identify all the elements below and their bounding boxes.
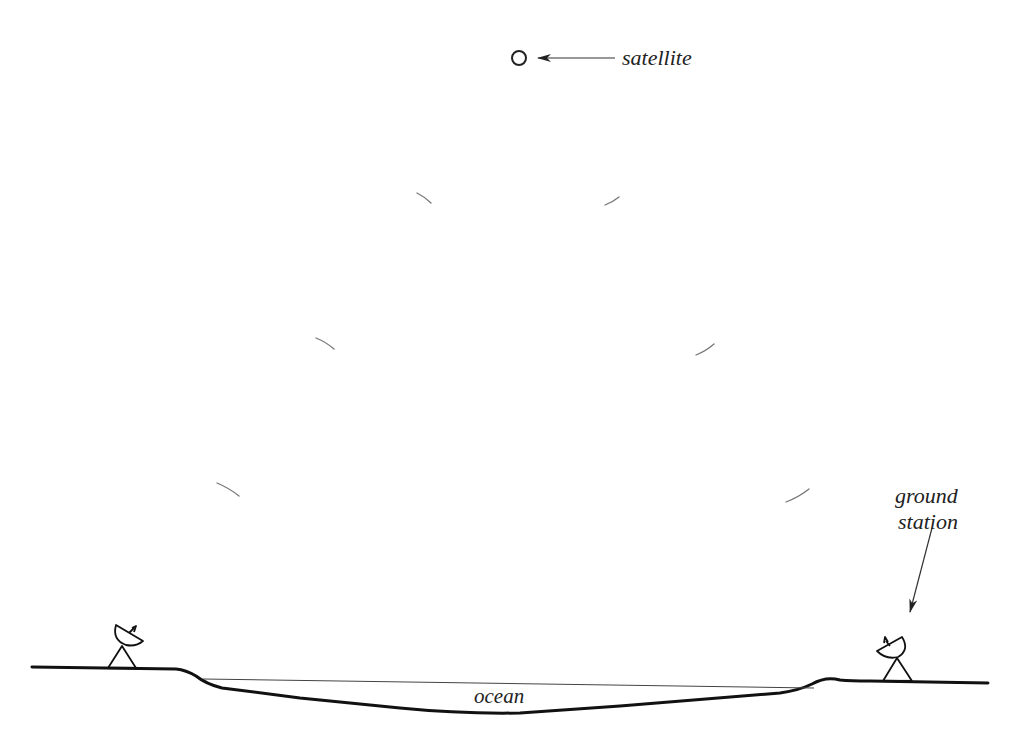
signal-arc	[217, 483, 239, 496]
signal-arc	[786, 489, 809, 502]
signal-arc	[605, 197, 619, 205]
diagram-canvas	[0, 0, 1027, 748]
satellite-label: satellite	[622, 47, 692, 69]
satellite-icon	[512, 51, 526, 65]
ocean-label: ocean	[474, 686, 524, 707]
signal-arcs-left	[217, 193, 431, 496]
ground-station-label-line1: ground	[895, 485, 958, 507]
satellite-dish-icon	[108, 625, 143, 668]
signal-arcs-right	[605, 197, 809, 502]
signal-arc	[417, 193, 431, 203]
ground-station-label-line2: station	[898, 511, 958, 533]
signal-arc	[316, 338, 334, 349]
ground-station-arrow	[910, 528, 932, 612]
signal-arc	[696, 344, 714, 355]
satellite-dish-icon	[877, 637, 912, 681]
